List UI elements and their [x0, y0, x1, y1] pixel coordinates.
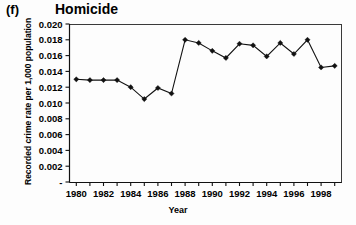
- plot-area: -0.0020.0040.0060.0080.0100.0120.0140.01…: [0, 0, 356, 225]
- x-tick-label: 1982: [93, 188, 114, 199]
- data-point-marker: [169, 91, 174, 96]
- series-line-homicide: [76, 40, 334, 99]
- x-tick-label: 1986: [147, 188, 168, 199]
- y-tick-label: 0.010: [39, 98, 63, 109]
- y-tick-label: 0.018: [39, 34, 63, 45]
- y-tick-label: -: [59, 177, 62, 188]
- data-point-marker: [319, 65, 324, 70]
- data-point-marker: [332, 63, 337, 68]
- y-tick-label: 0.014: [39, 66, 63, 77]
- x-tick-label: 1990: [202, 188, 223, 199]
- data-point-marker: [210, 48, 215, 53]
- plot-frame: [70, 25, 342, 183]
- y-tick-label: 0.008: [39, 113, 63, 124]
- data-point-marker: [196, 40, 201, 45]
- x-tick-label: 1998: [311, 188, 332, 199]
- x-tick-label: 1996: [283, 188, 304, 199]
- x-tick-label: 1980: [66, 188, 87, 199]
- y-tick-label: 0.006: [39, 129, 63, 140]
- x-tick-label: 1984: [120, 188, 142, 199]
- data-point-marker: [101, 77, 106, 82]
- y-axis-ticks: -0.0020.0040.0060.0080.0100.0120.0140.01…: [39, 19, 70, 188]
- data-point-marker: [74, 77, 79, 82]
- y-tick-label: 0.016: [39, 50, 63, 61]
- y-tick-label: 0.004: [39, 145, 63, 156]
- x-tick-label: 1988: [175, 188, 196, 199]
- y-tick-label: 0.002: [39, 161, 63, 172]
- x-axis-ticks: 1980198219841986198819901992199419961998: [66, 182, 335, 199]
- y-tick-label: 0.020: [39, 19, 63, 30]
- y-axis-label: Recorded crime rate per 1,000 population: [23, 25, 33, 185]
- data-point-marker: [87, 77, 92, 82]
- data-point-marker: [115, 77, 120, 82]
- x-tick-label: 1992: [229, 188, 250, 199]
- x-tick-label: 1994: [256, 188, 278, 199]
- x-axis-label: Year: [0, 205, 356, 215]
- y-tick-label: 0.012: [39, 82, 63, 93]
- data-point-marker: [183, 37, 188, 42]
- chart-figure: (f) Homicide -0.0020.0040.0060.0080.0100…: [0, 0, 356, 225]
